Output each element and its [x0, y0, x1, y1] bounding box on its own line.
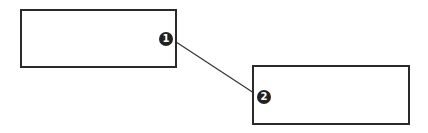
- number-badge-2: 2: [257, 90, 271, 104]
- callout-box-2: [252, 65, 410, 125]
- callout-box-1: [20, 9, 177, 68]
- number-badge-1: 1: [159, 32, 173, 46]
